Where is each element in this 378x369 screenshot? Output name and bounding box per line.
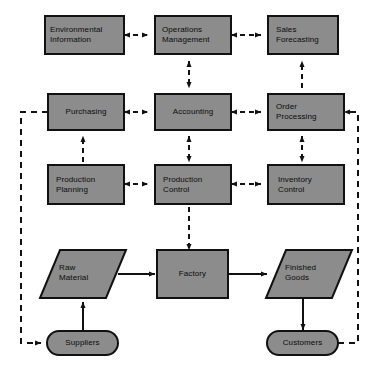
- node-suppliers[interactable]: [47, 331, 118, 355]
- node-purchasing[interactable]: [48, 94, 124, 130]
- node-finished-goods[interactable]: [266, 250, 352, 298]
- node-factory[interactable]: [157, 250, 228, 298]
- node-operations-management[interactable]: [155, 16, 231, 54]
- edge-customers-to-order-processing: [338, 112, 358, 343]
- node-environmental-information[interactable]: [45, 16, 124, 54]
- node-accounting[interactable]: [155, 94, 231, 130]
- node-customers[interactable]: [267, 331, 338, 355]
- node-inventory-control[interactable]: [268, 165, 344, 204]
- node-raw-material[interactable]: [40, 250, 126, 298]
- flow-diagram: Environmental Information Operations Man…: [0, 0, 378, 369]
- edge-purchasing-to-suppliers: [21, 112, 48, 343]
- node-production-control[interactable]: [155, 165, 231, 204]
- diagram-canvas: [0, 0, 378, 369]
- node-sales-forecasting[interactable]: [268, 16, 338, 54]
- node-order-processing[interactable]: [268, 94, 344, 130]
- node-production-planning[interactable]: [48, 165, 124, 204]
